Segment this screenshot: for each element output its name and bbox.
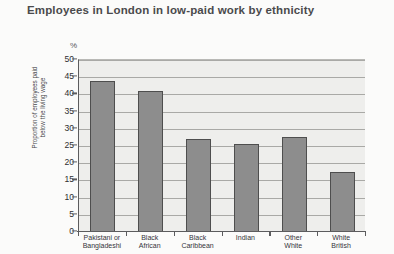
y-axis-tick-mark [72,58,77,59]
y-axis-tick-label: 10 [52,192,74,202]
y-axis-tick-mark [72,230,77,231]
bar [90,81,115,232]
x-axis-category-label-line: White [310,234,372,242]
y-axis-tick-label: 40 [52,88,74,98]
y-axis-tick-label: 5 [52,209,74,219]
gridline [79,180,365,181]
y-axis-title-line-1: Proportion of employees paid [31,48,39,168]
gridline [79,129,365,130]
bar [330,172,355,232]
y-axis-tick-label: 50 [52,54,74,64]
y-axis-ticks: 05101520253035404550 [48,0,74,254]
y-axis-tick-mark [72,196,77,197]
y-axis-tick-mark [72,76,77,77]
y-axis-tick-mark [72,93,77,94]
bar [282,137,307,232]
y-axis-tick-label: 35 [52,106,74,116]
gridline [79,112,365,113]
bar [186,139,211,232]
y-axis-tick-mark [72,162,77,163]
gridline [79,77,365,78]
y-axis-title: Proportion of employees paid below the l… [31,48,46,168]
gridline [79,163,365,164]
y-axis-tick-mark [72,144,77,145]
y-axis-tick-label: 20 [52,157,74,167]
y-axis-tick-mark [72,213,77,214]
gridline [79,146,365,147]
gridline [79,215,365,216]
y-axis-tick-mark [72,127,77,128]
y-axis-tick-label: 45 [52,71,74,81]
chart-figure: Employees in London in low-paid work by … [0,0,394,254]
plot-area [78,59,365,231]
gridline [79,60,365,61]
x-axis-category-label: WhiteBritish [310,234,372,251]
y-axis-tick-mark [72,179,77,180]
x-axis-category-label-line: Caribbean [167,242,229,250]
y-axis-tick-mark [72,110,77,111]
gridline [79,198,365,199]
y-axis-tick-label: 25 [52,140,74,150]
bar [234,144,259,232]
y-axis-title-line-2: below the living wage [39,48,47,168]
bar [138,91,163,232]
x-axis-category-label-line: British [310,242,372,250]
gridline [79,94,365,95]
y-axis-tick-label: 15 [52,174,74,184]
y-axis-tick-label: 30 [52,123,74,133]
